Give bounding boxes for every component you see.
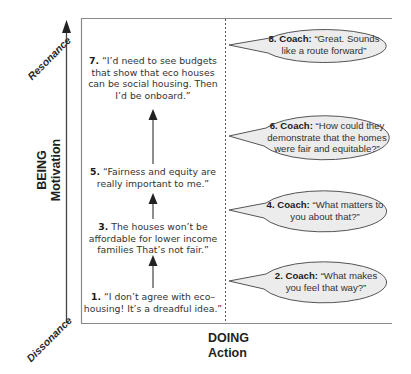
coach-text-6: 6. Coach: “How could they demonstrate th… <box>264 120 390 155</box>
coach-speaker: Coach: <box>285 270 318 281</box>
coach-text-8: 8. Coach: “Great. Sounds like a route fo… <box>265 33 383 56</box>
statement-text: “Fairness and equity are really importan… <box>97 166 216 189</box>
y-axis-title: BEING Motivation <box>35 130 65 210</box>
x-axis-title-action: Action <box>208 346 249 361</box>
coach-number: 6. <box>270 120 278 131</box>
statement-number: 7. <box>89 55 99 66</box>
y-axis-title-motivation: Motivation <box>49 130 63 210</box>
statement-7: 7. “I’d need to see budgets that show th… <box>83 55 223 101</box>
statement-text: “I’d need to see budgets that show that … <box>88 55 217 101</box>
statement-text: “I don’t agree with eco– housing! It’s a… <box>84 291 222 314</box>
coach-speaker: Coach: <box>277 199 310 210</box>
arrow-3-to-5 <box>149 193 158 219</box>
arrow-1-to-3 <box>149 255 158 288</box>
statement-number: 3. <box>98 221 108 232</box>
statement-number: 5. <box>90 166 100 177</box>
coach-text-4: 4. Coach: “What matters to you about tha… <box>265 199 385 222</box>
statement-number: 1. <box>91 291 101 302</box>
statement-1: 1. “I don’t agree with eco– housing! It’… <box>83 291 223 314</box>
statement-3: 3. The houses won’t be affordable for lo… <box>83 221 223 256</box>
y-axis-title-being: BEING <box>35 130 49 210</box>
arrow-5-to-7 <box>149 109 158 164</box>
statement-5: 5. “Fairness and equity are really impor… <box>83 166 223 189</box>
statement-text: The houses won’t be affordable for lower… <box>89 221 217 255</box>
coach-number: 2. <box>275 270 283 281</box>
coach-speaker: Coach: <box>280 120 313 131</box>
coach-speaker: Coach: <box>279 33 312 44</box>
x-axis-title-doing: DOING <box>208 331 249 346</box>
x-axis-title: DOING Action <box>208 331 249 361</box>
coach-number: 4. <box>267 199 275 210</box>
coach-number: 8. <box>269 33 277 44</box>
coach-text-2: 2. Coach: “What makes you feel that way?… <box>268 270 384 293</box>
